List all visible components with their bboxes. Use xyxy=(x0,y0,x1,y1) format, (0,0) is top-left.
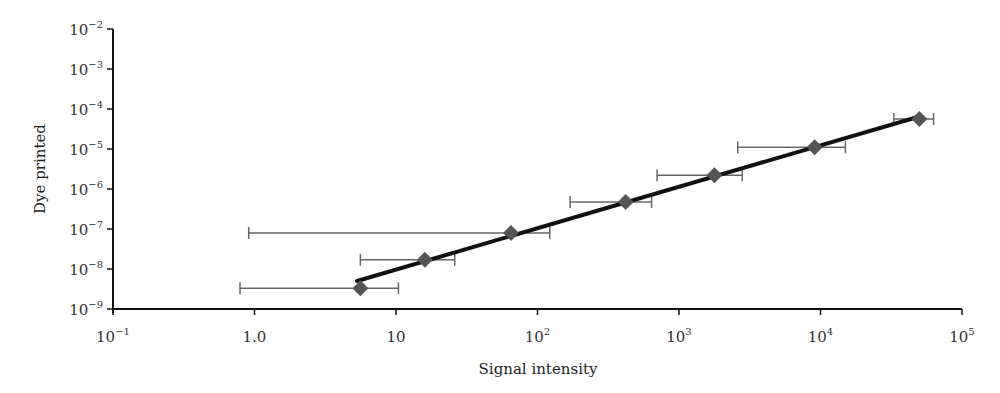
y-tick-label: 10−6 xyxy=(69,179,103,199)
x-tick-label: 10 xyxy=(386,328,405,346)
x-tick-label: 105 xyxy=(949,326,974,346)
axes xyxy=(113,29,962,313)
y-tick-label: 10−4 xyxy=(69,99,103,119)
x-tick-label: 104 xyxy=(808,326,833,346)
x-tick-label: 103 xyxy=(666,326,691,346)
y-tick-label: 10−9 xyxy=(69,299,103,319)
y-tick-label: 10−2 xyxy=(69,19,103,39)
y-tick-label: 10−5 xyxy=(69,139,103,159)
diamond-marker xyxy=(417,252,433,268)
x-axis-title: Signal intensity xyxy=(479,360,598,378)
y-tick-label: 10−7 xyxy=(69,219,103,239)
x-tick-label: 1.0 xyxy=(243,328,267,346)
diamond-marker xyxy=(706,167,722,183)
diamond-marker xyxy=(352,280,368,296)
chart: 10−11.010102103104105 10−910−810−710−610… xyxy=(0,0,1000,393)
y-tick-label: 10−8 xyxy=(69,259,103,279)
y-tick-label: 10−3 xyxy=(69,59,103,79)
x-tick-label: 102 xyxy=(525,326,550,346)
x-tick-label: 10−1 xyxy=(96,326,130,346)
x-axis-ticks: 10−11.010102103104105 xyxy=(96,309,975,346)
fit-line-path xyxy=(357,116,919,281)
diamond-marker xyxy=(807,139,823,155)
diamond-marker xyxy=(911,111,927,127)
error-bars xyxy=(240,113,934,294)
y-axis-title: Dye printed xyxy=(31,124,49,214)
fit-line xyxy=(357,116,919,281)
y-axis-ticks: 10−910−810−710−610−510−410−310−2 xyxy=(69,19,113,319)
diamond-marker xyxy=(618,194,634,210)
